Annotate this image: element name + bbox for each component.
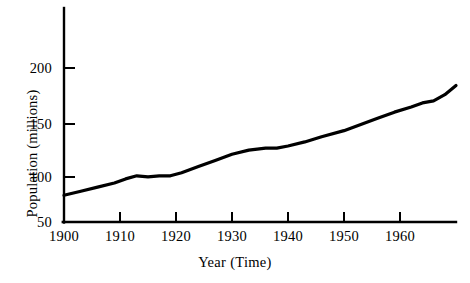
x-axis-ticks (120, 213, 400, 222)
x-tick-label-1910: 1910 (105, 228, 135, 245)
population-data-line (64, 85, 456, 195)
y-axis-ticks (64, 68, 74, 177)
x-tick-label-1950: 1950 (329, 228, 359, 245)
x-tick-label-1960: 1960 (385, 228, 415, 245)
x-tick-label-1920: 1920 (161, 228, 191, 245)
x-axis-title: Year (Time) (0, 254, 470, 271)
population-line-chart: 200 150 100 50 1900 1910 1920 1930 1940 … (0, 0, 470, 283)
x-tick-label-1930: 1930 (217, 228, 247, 245)
x-tick-label-1900: 1900 (49, 228, 79, 245)
x-tick-label-1940: 1940 (273, 228, 303, 245)
y-axis-title: Population (millions) (24, 69, 41, 239)
